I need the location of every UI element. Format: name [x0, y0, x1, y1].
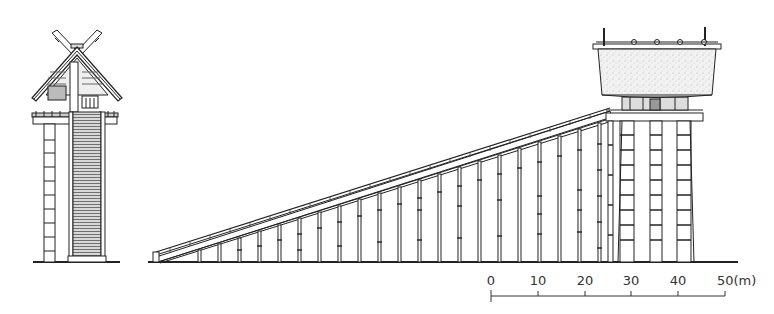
scale-tick-0: 0	[487, 273, 495, 288]
scale-bar: 0 10 20 30 40 50(m)	[487, 273, 757, 302]
architectural-drawing: 0 10 20 30 40 50(m)	[0, 0, 774, 314]
scale-tick-50: 50(m)	[717, 273, 756, 288]
scale-tick-40: 40	[670, 273, 687, 288]
front-staircase	[73, 112, 101, 262]
front-roof	[32, 47, 122, 112]
front-left-pillar	[44, 124, 55, 262]
shrine-body	[622, 97, 688, 110]
scale-tick-20: 20	[577, 273, 594, 288]
stair-support-posts	[198, 123, 601, 262]
side-elevation	[148, 27, 738, 263]
tower-pillars	[608, 121, 694, 262]
scale-tick-30: 30	[623, 273, 640, 288]
tower-platform	[606, 113, 703, 121]
shrine-thatched-roof	[593, 27, 721, 98]
scale-tick-10: 10	[530, 273, 547, 288]
front-elevation	[32, 30, 122, 262]
front-stair-rail-right	[101, 112, 105, 262]
inclined-staircase	[153, 108, 612, 263]
front-stair-rail-left	[69, 112, 73, 262]
